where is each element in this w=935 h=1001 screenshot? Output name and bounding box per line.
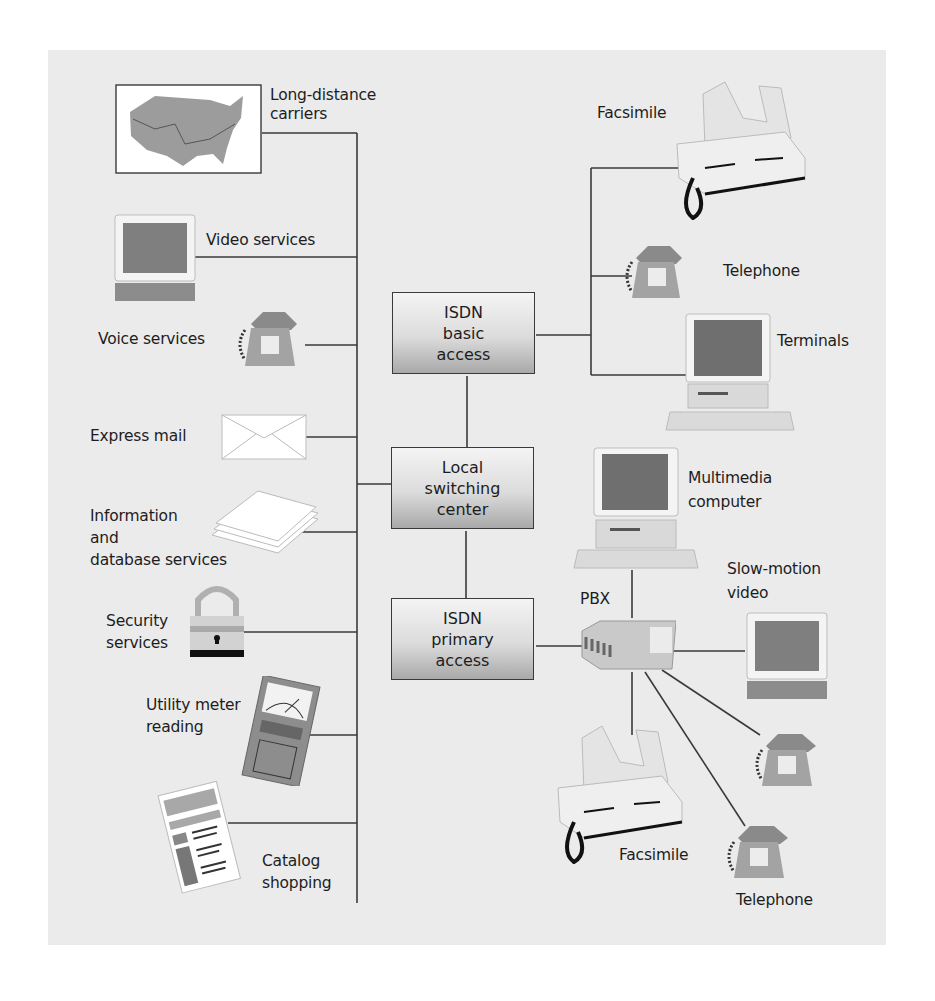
label-line: shopping <box>262 872 331 894</box>
label-line: Catalog <box>262 850 331 872</box>
facsimile-label: Facsimile <box>597 104 666 123</box>
hub-label-line: ISDN <box>437 302 491 323</box>
telephone-icon <box>233 304 307 374</box>
video-services-label: Video services <box>206 231 315 250</box>
us-map-icon <box>115 84 263 174</box>
multimedia-computer-label: Multimedia computer <box>688 466 772 514</box>
label-line: reading <box>146 716 241 738</box>
telephone-label: Telephone <box>723 262 800 281</box>
label-line: database services <box>90 549 227 571</box>
video-monitor-icon <box>113 213 197 303</box>
voice-services-label: Voice services <box>98 330 205 349</box>
label-line: Security <box>106 610 168 632</box>
label-line: video <box>727 581 821 605</box>
telephone-icon <box>620 240 694 304</box>
hub-label-line: access <box>431 650 494 671</box>
utility-meter-reading-label: Utility meter reading <box>146 694 241 738</box>
terminals-label: Terminals <box>777 332 849 351</box>
long-distance-carriers-label: Long-distance carriers <box>270 86 376 124</box>
hub-label-line: ISDN <box>431 608 494 629</box>
pbx-label: PBX <box>580 590 610 609</box>
catalog-icon <box>155 779 245 894</box>
label-line: Multimedia <box>688 466 772 490</box>
local-switching-center-box: Local switching center <box>391 447 534 529</box>
isdn-primary-access-box: ISDN primary access <box>391 598 534 680</box>
isdn-basic-access-box: ISDN basic access <box>392 292 535 374</box>
facsimile-label: Facsimile <box>619 846 688 865</box>
multimedia-computer-icon <box>572 444 702 570</box>
telephone-icon <box>722 820 798 884</box>
label-line: and <box>90 527 227 549</box>
envelope-icon <box>221 414 307 460</box>
utility-meter-icon <box>240 676 322 786</box>
hub-label-line: center <box>425 499 501 520</box>
hub-label-line: Local <box>425 457 501 478</box>
slow-motion-video-monitor-icon <box>745 611 829 701</box>
label-line: services <box>106 632 168 654</box>
security-services-label: Security services <box>106 610 168 654</box>
hub-label-line: basic <box>437 323 491 344</box>
telephone-icon <box>750 728 826 792</box>
express-mail-label: Express mail <box>90 427 186 446</box>
padlock-icon <box>188 582 246 660</box>
catalog-shopping-label: Catalog shopping <box>262 850 331 894</box>
label-line: computer <box>688 490 772 514</box>
terminal-computer-icon <box>664 312 796 434</box>
telephone-label: Telephone <box>736 891 813 910</box>
label-line: carriers <box>270 105 376 124</box>
information-database-services-label: Information and database services <box>90 505 227 571</box>
facsimile-icon <box>556 722 686 864</box>
label-line: Slow-motion <box>727 557 821 581</box>
hub-label-line: primary <box>431 629 494 650</box>
facsimile-icon <box>675 78 810 220</box>
label-line: Utility meter <box>146 694 241 716</box>
label-line: Long-distance <box>270 86 376 105</box>
pbx-unit-icon <box>580 617 676 675</box>
hub-label-line: switching <box>425 478 501 499</box>
label-line: Information <box>90 505 227 527</box>
hub-label-line: access <box>437 344 491 365</box>
slow-motion-video-label: Slow-motion video <box>727 557 821 605</box>
